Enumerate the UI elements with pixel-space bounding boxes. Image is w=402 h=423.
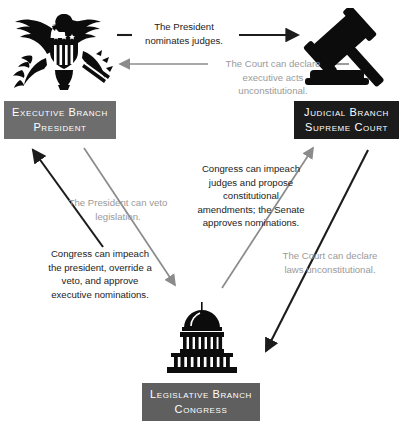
eagle-seal-icon [10, 8, 118, 92]
caption-congress-impeach-judges: Congress can impeach judges and propose … [190, 162, 312, 230]
executive-branch-box[interactable]: Executive Branch President [4, 101, 116, 139]
checks-and-balances-diagram: Executive Branch President Judicial Bran… [0, 0, 402, 423]
caption-court-declares-executive-acts: The Court can declare executive acts unc… [210, 57, 336, 98]
capitol-building-icon [158, 302, 246, 374]
judicial-branch-box[interactable]: Judicial Branch Supreme Court [294, 101, 399, 139]
legislative-branch-box[interactable]: Legislative Branch Congress [142, 383, 260, 421]
caption-court-declares-laws-unconstitutional: The Court can declare laws unconstitutio… [266, 249, 394, 276]
judicial-branch-sublabel: Supreme Court [305, 120, 388, 135]
executive-branch-sublabel: President [33, 120, 86, 135]
legislative-branch-sublabel: Congress [175, 402, 228, 417]
judicial-branch-label: Judicial Branch [304, 105, 389, 120]
caption-congress-impeach-president: Congress can impeach the president, over… [30, 247, 170, 301]
legislative-branch-label: Legislative Branch [150, 387, 252, 402]
caption-president-can-veto: The President can veto legislation. [56, 196, 180, 223]
executive-branch-label: Executive Branch [12, 105, 108, 120]
caption-president-nominates-judges: The President nominates judges. [128, 20, 240, 47]
